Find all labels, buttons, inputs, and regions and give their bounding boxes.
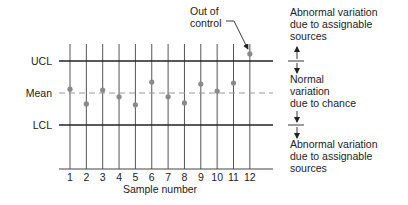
data-point-7 <box>166 94 171 99</box>
sample-lines <box>70 44 250 169</box>
middle-zone-annotation: Normal variation due to chance <box>290 73 356 109</box>
data-point-12 <box>247 51 252 56</box>
data-point-1 <box>67 87 72 92</box>
x-tick-label-5: 5 <box>132 171 138 183</box>
x-tick-label-6: 6 <box>149 171 155 183</box>
data-point-6 <box>149 80 154 85</box>
lower-zone-text-line-1: Abnormal variation <box>290 138 378 150</box>
data-point-5 <box>133 102 138 107</box>
upper-zone-text-line-1: Abnormal variation <box>290 6 378 18</box>
x-tick-label-12: 12 <box>244 171 256 183</box>
data-points <box>67 51 252 107</box>
data-point-4 <box>116 94 121 99</box>
out-of-control-label-line-1: Out of <box>190 5 219 17</box>
x-tick-label-1: 1 <box>67 171 73 183</box>
lower-zone-annotation: Abnormal variation due to assignable sou… <box>290 138 378 174</box>
data-point-10 <box>215 88 220 93</box>
x-tick-label-3: 3 <box>100 171 106 183</box>
x-tick-labels: 123456789101112 <box>67 171 256 183</box>
out-of-control-label-line-2: control <box>190 17 222 29</box>
x-tick-label-4: 4 <box>116 171 122 183</box>
out-of-control-leader-arrow <box>226 21 248 49</box>
data-point-3 <box>100 88 105 93</box>
upper-zone-text-line-3: sources <box>290 30 327 42</box>
data-point-9 <box>198 81 203 86</box>
lcl-label: LCL <box>33 119 52 131</box>
x-tick-label-11: 11 <box>228 171 239 183</box>
ucl-boundary-marker <box>288 47 304 73</box>
x-tick-label-10: 10 <box>211 171 223 183</box>
x-axis-label: Sample number <box>123 183 198 195</box>
middle-zone-text-line-3: due to chance <box>290 97 356 109</box>
upper-zone-text-line-2: due to assignable <box>290 18 372 30</box>
ucl-label: UCL <box>31 55 52 67</box>
data-point-8 <box>182 100 187 105</box>
mean-label: Mean <box>26 87 52 99</box>
lower-zone-text-line-2: due to assignable <box>290 150 372 162</box>
x-tick-label-9: 9 <box>198 171 204 183</box>
control-chart: UCL Mean LCL 123456789101112 Sample numb… <box>0 0 408 205</box>
x-tick-label-8: 8 <box>182 171 188 183</box>
x-tick-label-7: 7 <box>165 171 171 183</box>
x-tick-label-2: 2 <box>83 171 89 183</box>
data-point-11 <box>231 80 236 85</box>
upper-zone-annotation: Abnormal variation due to assignable sou… <box>290 6 378 42</box>
middle-zone-text-line-1: Normal <box>290 73 324 85</box>
data-point-2 <box>84 101 89 106</box>
middle-zone-text-line-2: variation <box>290 85 330 97</box>
lcl-boundary-marker <box>288 111 304 138</box>
lower-zone-text-line-3: sources <box>290 162 327 174</box>
